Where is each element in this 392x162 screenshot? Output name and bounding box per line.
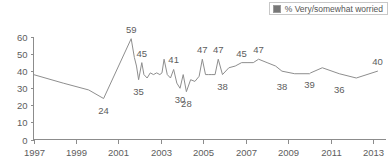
data-point-label: 24 (98, 105, 109, 116)
y-tick-label: 10 (17, 117, 28, 128)
line-chart-plot: 0102030405060 19971999200120032005200720… (0, 0, 392, 162)
y-tick-label: 40 (17, 66, 28, 77)
x-axis: 199719992001200320052007200920112013 (24, 140, 386, 158)
data-point-label: 28 (181, 98, 192, 109)
x-tick-labels: 199719992001200320052007200920112013 (24, 147, 384, 158)
data-point-label: 45 (236, 48, 247, 59)
data-point-label: 45 (137, 48, 148, 59)
data-point-label: 47 (253, 44, 264, 55)
y-tick-label: 60 (17, 32, 28, 43)
data-point-label: 59 (126, 24, 137, 35)
data-point-label: 41 (168, 54, 179, 65)
x-tick-label: 2013 (363, 147, 384, 158)
x-tick-label: 2005 (193, 147, 214, 158)
x-tick-label: 1999 (66, 147, 87, 158)
y-tick-labels: 0102030405060 (17, 32, 28, 146)
x-tick-label: 2001 (108, 147, 129, 158)
data-point-label: 47 (213, 44, 224, 55)
x-tick-label: 2009 (278, 147, 299, 158)
x-tick-label: 2011 (321, 147, 341, 158)
data-point-label: 38 (277, 81, 288, 92)
x-tick-label: 2003 (151, 147, 172, 158)
y-tick-label: 50 (17, 49, 28, 60)
y-tick-label: 20 (17, 100, 28, 111)
data-point-label: 38 (217, 81, 228, 92)
data-point-label: 40 (372, 56, 383, 67)
y-tick-label: 30 (17, 83, 28, 94)
data-point-label: 35 (133, 86, 144, 97)
y-axis: 0102030405060 (17, 32, 34, 146)
x-tick-label: 2007 (236, 147, 257, 158)
data-point-label: 39 (304, 79, 315, 90)
x-tick-label: 1997 (24, 147, 45, 158)
data-point-label: 36 (334, 84, 345, 95)
chart-container: % Very/somewhat worried 0102030405060 19… (0, 0, 392, 162)
y-tick-label: 0 (22, 135, 27, 146)
x-tick-marks (35, 140, 374, 144)
data-point-label: 47 (197, 44, 208, 55)
